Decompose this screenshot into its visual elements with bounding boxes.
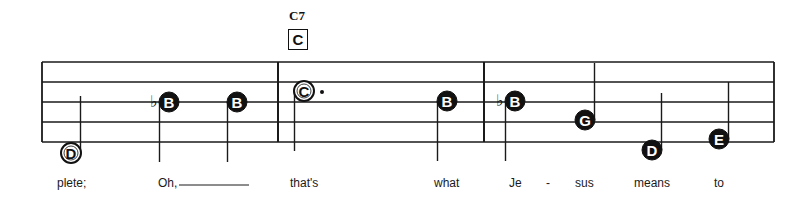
lyric-syllable: that's	[290, 176, 318, 190]
note-letter: B	[510, 93, 521, 110]
dot-icon	[320, 90, 324, 94]
lyric-syllable: means	[634, 176, 670, 190]
chord-symbol: C7	[289, 8, 305, 24]
flat-icon: ♭	[496, 91, 504, 110]
chord-letter-box: C	[288, 29, 308, 50]
lyric-syllable: sus	[575, 176, 594, 190]
lyric-syllable: what	[434, 176, 459, 190]
lyric-syllable: plete;	[57, 176, 86, 190]
note-letter: C	[299, 83, 310, 100]
flat-icon: ♭	[150, 92, 158, 111]
note-letter: B	[442, 93, 453, 110]
note-letter: G	[579, 112, 591, 129]
note-letter: E	[714, 131, 724, 148]
note-letter: D	[647, 142, 658, 159]
note-letter: B	[232, 94, 243, 111]
music-staff: DB♭BCBB♭GDE	[0, 0, 811, 204]
lyric-syllable: to	[714, 176, 724, 190]
lyric-syllable: -	[546, 176, 550, 190]
note-letter: D	[66, 145, 77, 162]
lyric-syllable: Je	[509, 176, 522, 190]
note-letter: B	[164, 94, 175, 111]
lyric-syllable: Oh,	[158, 176, 177, 190]
